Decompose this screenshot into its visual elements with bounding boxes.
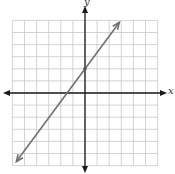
y-intercept-point [83, 67, 87, 71]
y-axis-label: y [84, 0, 90, 7]
y-axis-down-arrow-icon [82, 166, 88, 173]
x-axis-right-arrow-icon [160, 90, 167, 96]
axes [3, 6, 167, 173]
coordinate-plane [0, 0, 175, 174]
x-axis-left-arrow-icon [3, 90, 10, 96]
line-series [16, 22, 119, 161]
x-axis-label: x [168, 86, 174, 96]
plotted-line [16, 22, 119, 161]
y-axis-up-arrow-icon [82, 6, 88, 13]
